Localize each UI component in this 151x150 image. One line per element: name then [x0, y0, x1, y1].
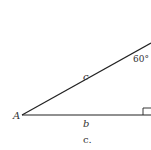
- angle-label: 60°: [133, 54, 149, 64]
- triangle-diagram: A c b 60° c.: [0, 0, 151, 150]
- hypotenuse-label: c: [83, 71, 89, 82]
- caption: c.: [83, 134, 92, 145]
- right-angle-marker: [143, 108, 151, 115]
- base-label: b: [83, 118, 89, 129]
- vertex-a-label: A: [12, 110, 20, 121]
